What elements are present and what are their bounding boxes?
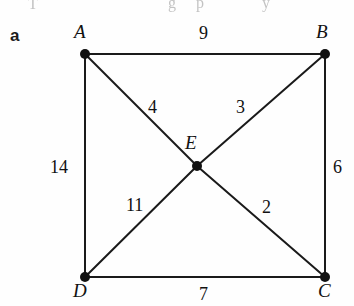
edge-weight-eb: 3	[236, 98, 245, 116]
node-layer	[80, 49, 330, 282]
vertex-label-b: B	[316, 22, 328, 41]
vertex-label-e: E	[185, 133, 197, 152]
graph-node-a	[80, 49, 90, 59]
vertex-label-a: A	[74, 22, 86, 41]
edge-weight-ad: 14	[50, 158, 68, 176]
vertex-label-c: C	[318, 281, 331, 300]
graph-edge-eb	[197, 54, 325, 166]
graph-figure: Tgpy a ABCDE9146743112	[0, 0, 354, 306]
edge-weight-de: 11	[126, 196, 143, 214]
edge-layer	[85, 54, 325, 277]
graph-edge-de	[85, 166, 197, 277]
vertex-label-d: D	[73, 281, 87, 300]
graph-edge-ae	[85, 54, 197, 166]
graph-canvas	[0, 0, 354, 306]
edge-weight-bc: 6	[333, 158, 342, 176]
graph-node-b	[320, 49, 330, 59]
edge-weight-ae: 4	[148, 98, 157, 116]
edge-weight-dc: 7	[199, 285, 208, 303]
edge-weight-ec: 2	[262, 198, 271, 216]
graph-edge-ec	[197, 166, 325, 277]
graph-node-e	[192, 161, 202, 171]
edge-weight-ab: 9	[199, 24, 208, 42]
